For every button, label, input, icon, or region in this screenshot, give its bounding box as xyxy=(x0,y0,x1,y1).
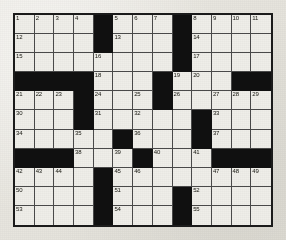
grid-letter-cell[interactable] xyxy=(54,130,74,149)
grid-letter-cell[interactable]: 29 xyxy=(251,91,271,110)
grid-letter-cell[interactable] xyxy=(54,187,74,206)
grid-letter-cell[interactable] xyxy=(232,187,252,206)
grid-letter-cell[interactable] xyxy=(35,53,55,72)
grid-letter-cell[interactable] xyxy=(251,187,271,206)
grid-letter-cell[interactable] xyxy=(212,34,232,53)
grid-letter-cell[interactable] xyxy=(133,72,153,91)
grid-letter-cell[interactable] xyxy=(173,149,193,168)
grid-letter-cell[interactable] xyxy=(192,91,212,110)
grid-letter-cell[interactable]: 41 xyxy=(192,149,212,168)
grid-letter-cell[interactable]: 49 xyxy=(251,168,271,187)
grid-letter-cell[interactable] xyxy=(251,53,271,72)
grid-letter-cell[interactable]: 15 xyxy=(15,53,35,72)
grid-letter-cell[interactable] xyxy=(251,206,271,225)
crossword-grid[interactable]: 1234567891011121314151617181920212223242… xyxy=(13,13,273,227)
grid-letter-cell[interactable]: 31 xyxy=(94,110,114,129)
grid-letter-cell[interactable]: 4 xyxy=(74,15,94,34)
grid-letter-cell[interactable] xyxy=(133,206,153,225)
grid-letter-cell[interactable]: 42 xyxy=(15,168,35,187)
grid-letter-cell[interactable]: 24 xyxy=(94,91,114,110)
grid-letter-cell[interactable] xyxy=(212,206,232,225)
grid-letter-cell[interactable] xyxy=(153,53,173,72)
grid-letter-cell[interactable]: 26 xyxy=(173,91,193,110)
grid-letter-cell[interactable]: 3 xyxy=(54,15,74,34)
grid-letter-cell[interactable] xyxy=(74,168,94,187)
grid-letter-cell[interactable]: 38 xyxy=(74,149,94,168)
grid-letter-cell[interactable] xyxy=(173,130,193,149)
grid-letter-cell[interactable]: 30 xyxy=(15,110,35,129)
grid-letter-cell[interactable]: 54 xyxy=(113,206,133,225)
grid-letter-cell[interactable]: 32 xyxy=(133,110,153,129)
grid-letter-cell[interactable]: 28 xyxy=(232,91,252,110)
grid-letter-cell[interactable] xyxy=(133,187,153,206)
grid-letter-cell[interactable] xyxy=(251,130,271,149)
grid-letter-cell[interactable]: 34 xyxy=(15,130,35,149)
grid-letter-cell[interactable]: 33 xyxy=(212,110,232,129)
grid-letter-cell[interactable]: 53 xyxy=(15,206,35,225)
grid-letter-cell[interactable] xyxy=(251,110,271,129)
grid-letter-cell[interactable]: 17 xyxy=(192,53,212,72)
grid-letter-cell[interactable] xyxy=(232,130,252,149)
grid-letter-cell[interactable]: 6 xyxy=(133,15,153,34)
grid-letter-cell[interactable] xyxy=(113,110,133,129)
grid-letter-cell[interactable] xyxy=(153,206,173,225)
grid-letter-cell[interactable]: 40 xyxy=(153,149,173,168)
grid-letter-cell[interactable] xyxy=(35,110,55,129)
grid-letter-cell[interactable] xyxy=(192,168,212,187)
grid-letter-cell[interactable] xyxy=(35,206,55,225)
grid-letter-cell[interactable]: 22 xyxy=(35,91,55,110)
grid-letter-cell[interactable] xyxy=(74,34,94,53)
grid-letter-cell[interactable] xyxy=(153,168,173,187)
grid-letter-cell[interactable]: 39 xyxy=(113,149,133,168)
grid-letter-cell[interactable] xyxy=(113,53,133,72)
grid-letter-cell[interactable] xyxy=(232,110,252,129)
grid-letter-cell[interactable]: 19 xyxy=(173,72,193,91)
grid-letter-cell[interactable] xyxy=(173,110,193,129)
grid-letter-cell[interactable] xyxy=(113,72,133,91)
grid-letter-cell[interactable]: 5 xyxy=(113,15,133,34)
grid-letter-cell[interactable] xyxy=(94,130,114,149)
grid-letter-cell[interactable]: 47 xyxy=(212,168,232,187)
grid-letter-cell[interactable] xyxy=(35,130,55,149)
grid-letter-cell[interactable]: 45 xyxy=(113,168,133,187)
grid-letter-cell[interactable] xyxy=(153,130,173,149)
grid-letter-cell[interactable] xyxy=(153,187,173,206)
grid-letter-cell[interactable]: 7 xyxy=(153,15,173,34)
grid-letter-cell[interactable]: 21 xyxy=(15,91,35,110)
grid-letter-cell[interactable]: 9 xyxy=(212,15,232,34)
grid-letter-cell[interactable] xyxy=(35,187,55,206)
grid-letter-cell[interactable] xyxy=(232,206,252,225)
grid-letter-cell[interactable] xyxy=(232,53,252,72)
grid-letter-cell[interactable]: 12 xyxy=(15,34,35,53)
grid-letter-cell[interactable]: 23 xyxy=(54,91,74,110)
grid-letter-cell[interactable] xyxy=(74,53,94,72)
grid-letter-cell[interactable] xyxy=(153,110,173,129)
grid-letter-cell[interactable]: 13 xyxy=(113,34,133,53)
grid-letter-cell[interactable]: 2 xyxy=(35,15,55,34)
grid-letter-cell[interactable] xyxy=(74,206,94,225)
grid-letter-cell[interactable]: 55 xyxy=(192,206,212,225)
grid-letter-cell[interactable] xyxy=(54,34,74,53)
grid-letter-cell[interactable] xyxy=(35,34,55,53)
grid-letter-cell[interactable]: 10 xyxy=(232,15,252,34)
grid-letter-cell[interactable]: 11 xyxy=(251,15,271,34)
grid-letter-cell[interactable] xyxy=(54,53,74,72)
grid-letter-cell[interactable] xyxy=(133,34,153,53)
grid-letter-cell[interactable]: 48 xyxy=(232,168,252,187)
grid-letter-cell[interactable]: 52 xyxy=(192,187,212,206)
grid-letter-cell[interactable]: 14 xyxy=(192,34,212,53)
grid-letter-cell[interactable]: 35 xyxy=(74,130,94,149)
grid-letter-cell[interactable] xyxy=(54,110,74,129)
grid-letter-cell[interactable]: 51 xyxy=(113,187,133,206)
grid-letter-cell[interactable]: 25 xyxy=(133,91,153,110)
grid-letter-cell[interactable] xyxy=(153,34,173,53)
grid-letter-cell[interactable] xyxy=(113,91,133,110)
grid-letter-cell[interactable] xyxy=(251,34,271,53)
grid-letter-cell[interactable]: 20 xyxy=(192,72,212,91)
grid-letter-cell[interactable]: 43 xyxy=(35,168,55,187)
grid-letter-cell[interactable] xyxy=(54,206,74,225)
grid-letter-cell[interactable] xyxy=(232,34,252,53)
grid-letter-cell[interactable] xyxy=(212,53,232,72)
grid-letter-cell[interactable]: 46 xyxy=(133,168,153,187)
grid-letter-cell[interactable] xyxy=(212,187,232,206)
